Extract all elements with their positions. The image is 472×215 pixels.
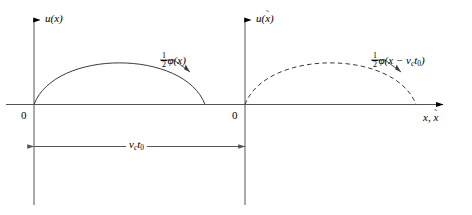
right-curve-label: 1 2 φ(x − vct0) bbox=[372, 52, 425, 69]
right-y-axis-label-base: u( bbox=[256, 12, 265, 24]
left-curve-label-numerator: 1 bbox=[161, 52, 167, 60]
right-y-axis-label: u(˜x) bbox=[256, 13, 274, 24]
left-curve-label: 1 2 φ(x) bbox=[161, 52, 186, 69]
right-y-axis-tilde-accent: ˜ bbox=[266, 9, 269, 18]
right-x-axis-label-separator: , bbox=[428, 111, 431, 123]
right-curve-label-denominator: 2 bbox=[372, 60, 378, 69]
right-origin-label: 0 bbox=[232, 110, 238, 121]
left-curve-label-denominator: 2 bbox=[161, 60, 167, 69]
left-curve-label-fraction: 1 2 bbox=[161, 52, 167, 69]
right-x-axis-tilde-accent: ˜ bbox=[434, 108, 437, 117]
right-y-axis-label-accented-var: ˜x bbox=[265, 13, 270, 24]
right-curve-label-arg-close: ) bbox=[421, 54, 425, 66]
right-curve-label-fraction: 1 2 bbox=[372, 52, 378, 69]
right-y-axis-label-close: ) bbox=[270, 12, 274, 24]
left-origin-label: 0 bbox=[21, 110, 27, 121]
wave-translation-figure: u(x) 0 1 2 φ(x) u(˜x) 0 x, ˜x 1 2 φ(x − … bbox=[0, 0, 472, 215]
right-origin-label-text: 0 bbox=[232, 109, 238, 121]
dimension-label-time-subscript: 0 bbox=[140, 143, 144, 152]
left-origin-label-text: 0 bbox=[21, 109, 27, 121]
left-y-axis-label-text: u(x) bbox=[45, 12, 63, 24]
right-x-axis-label-accented-var: ˜x bbox=[433, 112, 438, 123]
right-curve-label-numerator: 1 bbox=[372, 52, 378, 60]
left-y-axis-label: u(x) bbox=[45, 13, 63, 24]
figure-canvas bbox=[0, 0, 472, 215]
left-curve-label-argument: (x) bbox=[174, 54, 186, 66]
right-x-axis-label: x, ˜x bbox=[423, 112, 438, 123]
right-curve-label-arg-open: (x − bbox=[385, 54, 406, 66]
translation-dimension-label: vct0 bbox=[126, 139, 147, 152]
